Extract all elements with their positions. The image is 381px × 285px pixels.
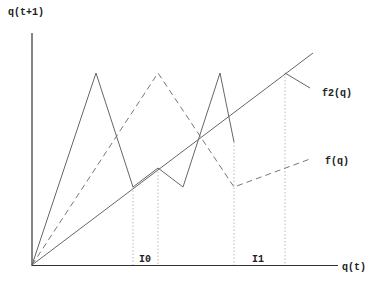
dotted-guides xyxy=(133,73,285,265)
y-axis-label: q(t+1) xyxy=(8,7,44,18)
cobweb-diagram: q(t+1) q(t) f2(q) f(q) I0 I1 xyxy=(0,0,381,285)
f-label: f(q) xyxy=(325,156,349,167)
f2-label: f2(q) xyxy=(322,88,352,99)
interval-label-i1: I1 xyxy=(252,254,264,265)
f2-curve-tail xyxy=(285,73,310,88)
f-curve xyxy=(32,73,310,265)
interval-label-i0: I0 xyxy=(139,254,151,265)
x-axis-label: q(t) xyxy=(342,262,366,273)
diagonal-line xyxy=(32,53,313,265)
